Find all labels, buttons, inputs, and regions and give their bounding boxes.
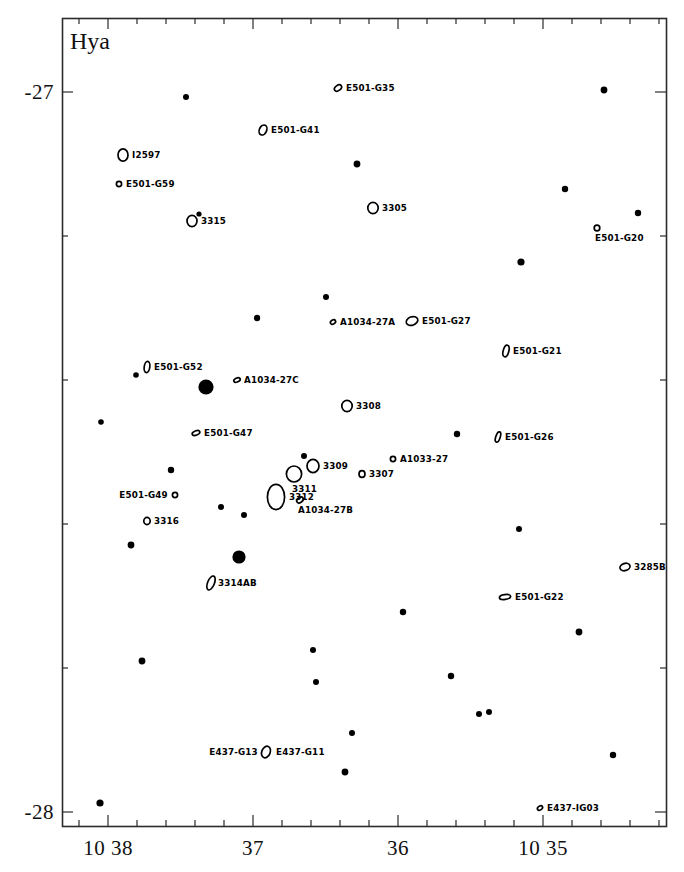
plot-frame — [63, 19, 667, 827]
y-axis-tick-label: -28 — [25, 800, 55, 825]
chart-title: Hya — [70, 28, 110, 55]
galaxy-label: E501-G21 — [513, 345, 562, 356]
star-marker — [576, 629, 583, 636]
galaxy-marker — [118, 149, 128, 161]
star-marker — [198, 379, 213, 394]
galaxy-label: 3309 — [323, 460, 348, 471]
galaxy-marker — [307, 459, 319, 472]
galaxy-marker — [205, 575, 217, 591]
galaxy-marker — [267, 484, 284, 509]
star-markers — [96, 87, 641, 807]
plot-border — [63, 19, 667, 827]
star-marker — [96, 799, 103, 806]
galaxy-label: A1034-27B — [298, 504, 353, 515]
star-marker — [448, 673, 454, 679]
star-marker — [232, 550, 245, 563]
galaxy-markers — [116, 84, 631, 812]
star-marker — [354, 161, 361, 168]
galaxy-marker — [144, 517, 150, 524]
galaxy-marker — [286, 466, 301, 482]
star-marker — [313, 679, 319, 685]
galaxy-label: E501-G35 — [346, 82, 395, 93]
galaxy-label: E501-G27 — [422, 315, 471, 326]
sky-chart: Hya 10 38373610 35-27-28 E501-G35E501-G4… — [0, 0, 684, 872]
star-marker — [128, 542, 135, 549]
galaxy-marker — [502, 344, 511, 357]
sky-plot-canvas — [0, 0, 684, 872]
star-marker — [610, 752, 616, 758]
galaxy-marker — [368, 202, 378, 213]
x-axis-tick-label: 37 — [242, 836, 264, 861]
axis-ticks — [62, 18, 666, 826]
star-marker — [601, 87, 608, 94]
galaxy-label: E501-G22 — [515, 591, 564, 602]
star-marker — [454, 431, 460, 437]
y-axis-tick-label: -27 — [25, 80, 55, 105]
x-axis-tick-label: 36 — [387, 836, 409, 861]
star-marker — [98, 419, 104, 425]
galaxy-marker — [405, 315, 419, 327]
galaxy-label: A1033-27 — [400, 453, 448, 464]
galaxy-marker — [619, 562, 631, 572]
galaxy-label: A1034-27A — [340, 316, 395, 327]
galaxy-marker — [333, 84, 343, 93]
star-marker — [635, 210, 641, 216]
galaxy-marker — [116, 181, 121, 186]
galaxy-label: E501-G52 — [154, 361, 203, 372]
galaxy-marker — [191, 430, 200, 437]
galaxy-marker — [342, 400, 352, 411]
star-marker — [254, 315, 260, 321]
star-marker — [139, 658, 146, 665]
galaxy-marker — [233, 377, 241, 383]
galaxy-label: I2597 — [132, 149, 161, 160]
star-marker — [516, 526, 522, 532]
galaxy-label: E501-G47 — [204, 427, 253, 438]
star-marker — [183, 94, 189, 100]
galaxy-label: E437-G11 — [276, 746, 325, 757]
star-marker — [310, 647, 316, 653]
star-marker — [342, 769, 349, 776]
galaxy-label: E501-G49 — [119, 489, 168, 500]
galaxy-label: 3315 — [201, 215, 226, 226]
star-marker — [349, 730, 355, 736]
galaxy-marker — [494, 431, 502, 443]
star-marker — [241, 512, 247, 518]
galaxy-marker — [172, 492, 177, 497]
galaxy-label: E501-G26 — [505, 431, 554, 442]
galaxy-label: 3305 — [382, 202, 407, 213]
galaxy-marker — [499, 594, 511, 600]
galaxy-label: E501-G41 — [271, 124, 320, 135]
galaxy-label: E501-G20 — [595, 232, 644, 243]
star-marker — [562, 186, 568, 192]
star-marker — [218, 504, 224, 510]
galaxy-marker — [390, 456, 395, 461]
galaxy-label: 3307 — [369, 468, 394, 479]
star-marker — [168, 467, 174, 473]
star-marker — [400, 609, 406, 615]
galaxy-label: E437-G13 — [209, 746, 258, 757]
galaxy-label: E437-IG03 — [547, 802, 599, 813]
galaxy-marker — [143, 361, 150, 373]
star-marker — [133, 372, 139, 378]
star-marker — [517, 258, 524, 265]
galaxy-marker — [187, 215, 197, 226]
galaxy-label: 3308 — [356, 400, 381, 411]
star-marker — [476, 711, 482, 717]
galaxy-label: 3312 — [289, 491, 314, 502]
star-marker — [486, 709, 492, 715]
galaxy-marker — [258, 124, 269, 136]
galaxy-marker — [330, 319, 337, 325]
galaxy-label: 3285B — [634, 561, 666, 572]
star-marker — [301, 453, 307, 459]
x-axis-tick-label: 10 35 — [518, 836, 568, 861]
galaxy-marker — [594, 225, 600, 231]
galaxy-marker — [260, 745, 272, 759]
galaxy-label: E501-G59 — [126, 178, 175, 189]
galaxy-label: 3316 — [154, 515, 179, 526]
x-axis-tick-label: 10 38 — [83, 836, 133, 861]
galaxy-label: 3314AB — [218, 577, 257, 588]
star-marker — [323, 294, 329, 300]
galaxy-marker — [537, 805, 544, 811]
galaxy-marker — [359, 471, 365, 478]
galaxy-label: A1034-27C — [244, 374, 299, 385]
